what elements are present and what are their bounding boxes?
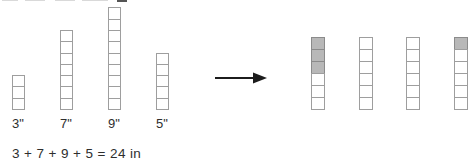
stack-7-inch xyxy=(60,30,73,110)
sum-equation: 3 + 7 + 9 + 5 = 24 in xyxy=(12,146,141,161)
stack-5-inch xyxy=(156,53,169,110)
equal-stack-2 xyxy=(359,37,373,110)
unit-square xyxy=(108,98,121,110)
equal-stack-1 xyxy=(311,37,325,110)
unit-square xyxy=(60,98,73,110)
stack-label-7in: 7" xyxy=(53,116,79,131)
cropped-text-artifact xyxy=(117,0,127,2)
equal-stack-4 xyxy=(454,37,468,110)
unit-square xyxy=(359,97,373,110)
stack-9-inch xyxy=(108,7,121,110)
stack-3-inch xyxy=(12,75,25,110)
cropped-text-artifact xyxy=(55,0,75,1)
cropped-text-artifact xyxy=(25,0,45,1)
cropped-text-artifact xyxy=(82,0,108,1)
stack-label-3in: 3" xyxy=(5,116,31,131)
cropped-text-artifact xyxy=(2,0,18,1)
equal-stack-3 xyxy=(406,37,420,110)
stack-label-5in: 5" xyxy=(149,116,175,131)
unit-square xyxy=(12,98,25,110)
unit-square xyxy=(406,97,420,110)
arrow-right-icon xyxy=(215,71,267,85)
worksheet-figure: 3" 7" 9" 5" 3 + 7 + 9 + 5 = 24 in xyxy=(0,0,474,167)
unit-square xyxy=(454,97,468,110)
unit-square xyxy=(311,97,325,110)
stack-label-9in: 9" xyxy=(101,116,127,131)
unit-square xyxy=(156,98,169,110)
